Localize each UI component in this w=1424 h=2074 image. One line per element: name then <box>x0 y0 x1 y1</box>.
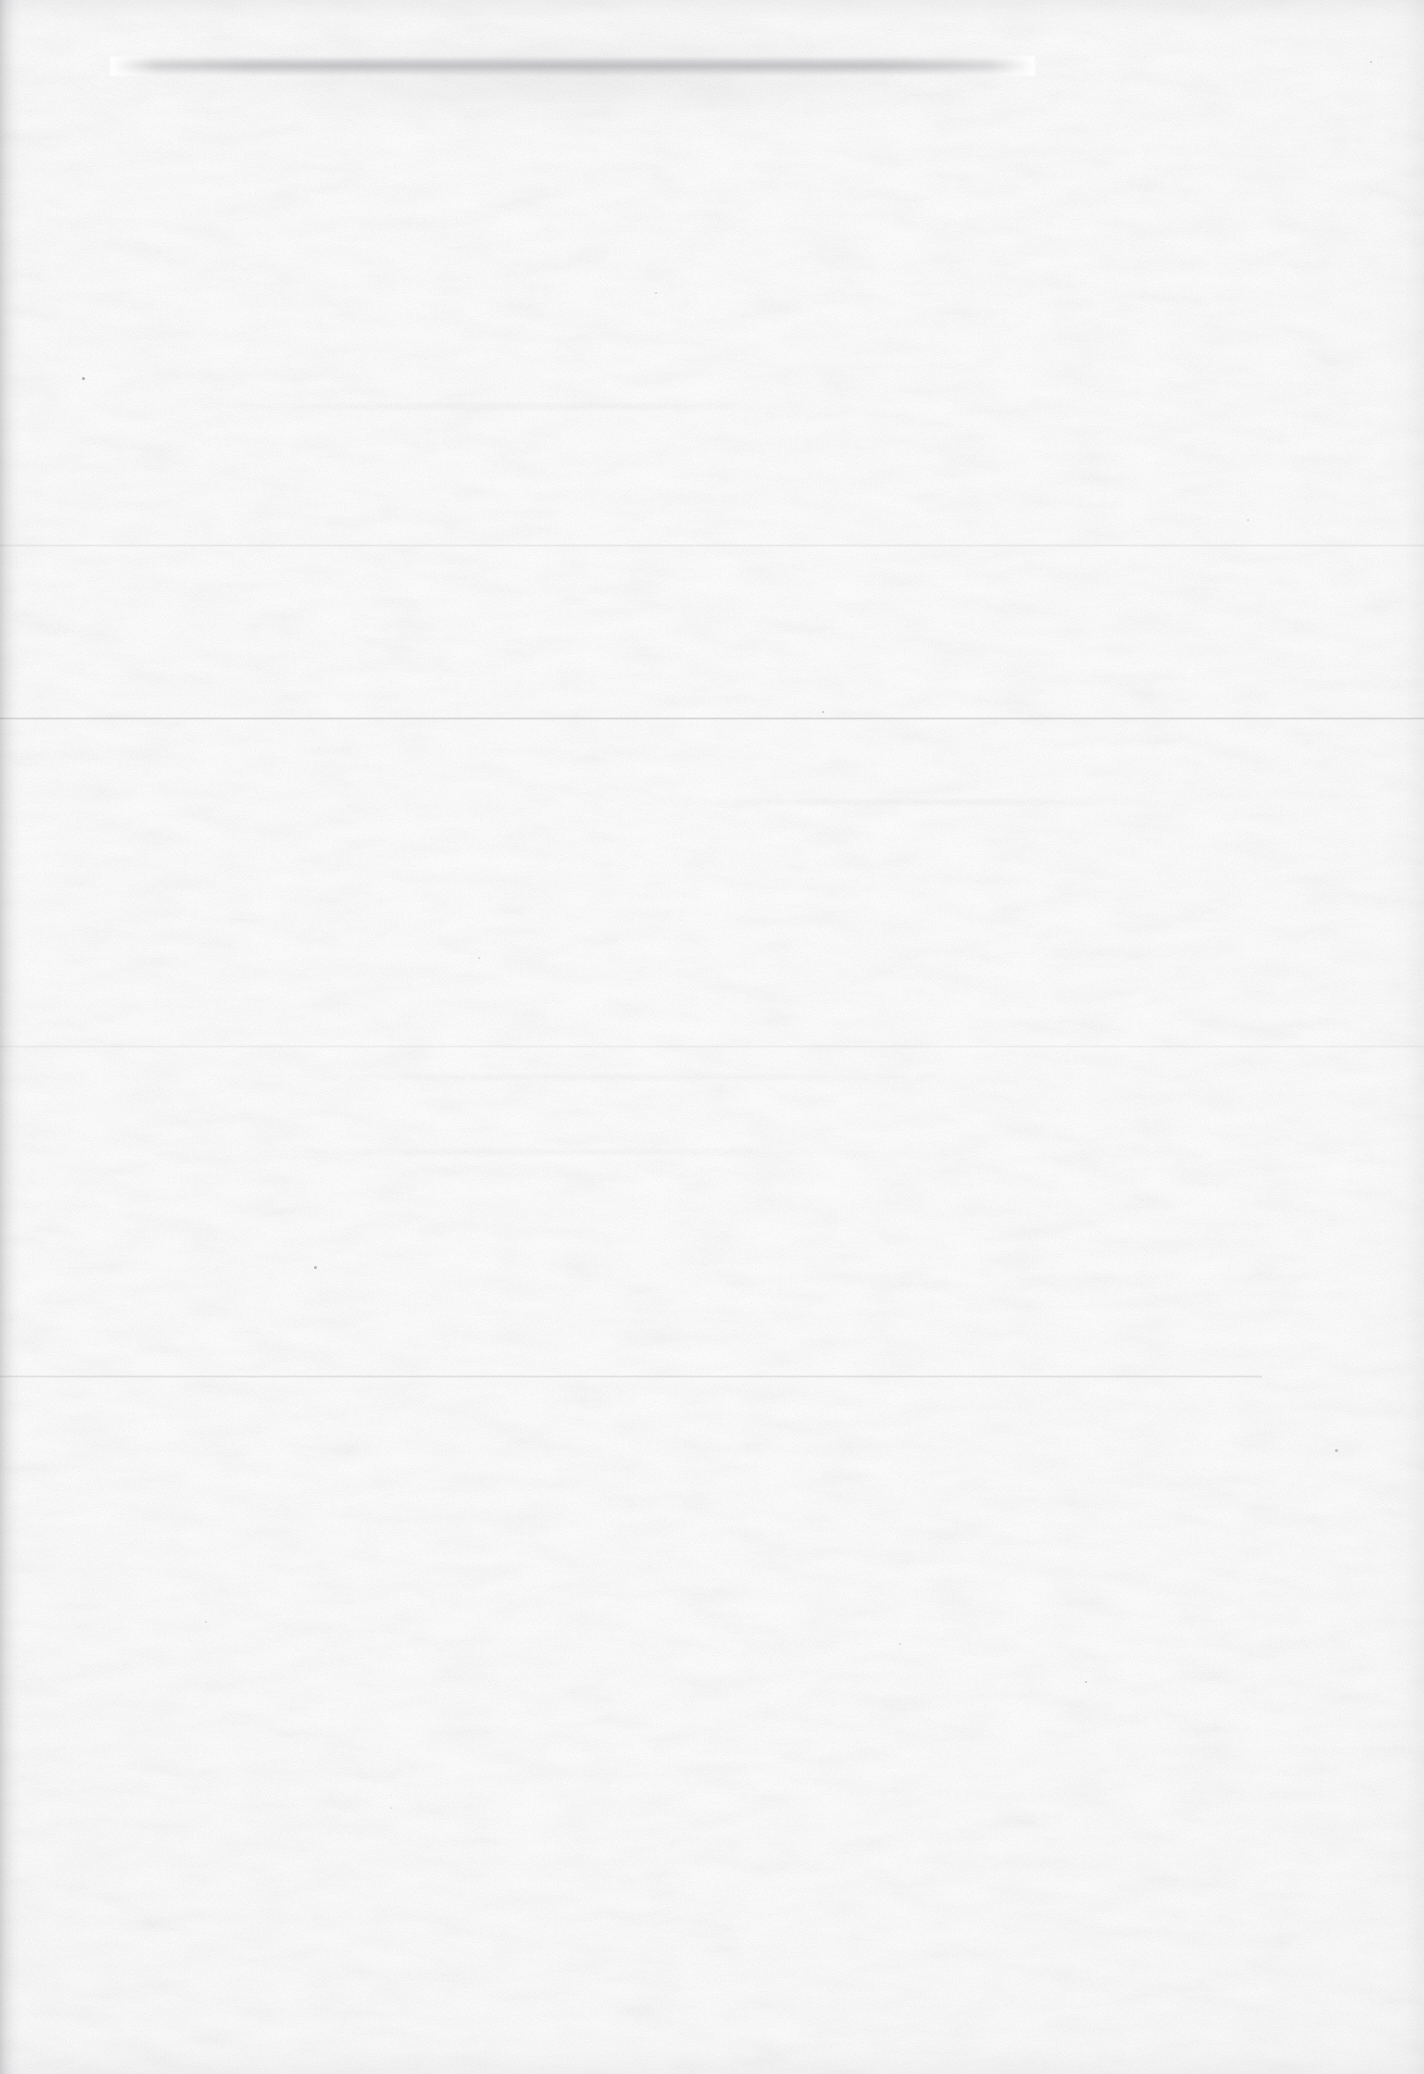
scanned-page <box>0 0 1424 2074</box>
paper-background <box>0 0 1424 2074</box>
